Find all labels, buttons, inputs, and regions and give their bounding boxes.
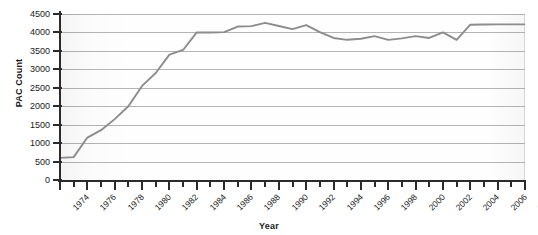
y-tick-label: 3000 (30, 64, 50, 74)
x-tick-label: 1990 (289, 192, 309, 212)
y-tick-label: 3500 (30, 46, 50, 56)
x-tick-mark-major (469, 182, 471, 190)
x-tick-mark-minor (264, 182, 266, 187)
chart-figure: PAC Count 050010001500200025003000350040… (0, 0, 538, 235)
x-tick-mark-minor (319, 182, 321, 187)
x-tick-mark-major (141, 182, 143, 190)
x-tick-mark-minor (182, 182, 184, 187)
y-tick-mark (53, 142, 62, 144)
x-tick-mark-major (114, 182, 116, 190)
y-tick-mark (53, 105, 62, 107)
x-tick-mark-minor (428, 182, 430, 187)
x-tick-mark-minor (100, 182, 102, 187)
x-tick-label: 1978 (125, 192, 145, 212)
x-tick-mark-major (223, 182, 225, 190)
y-tick-label: 500 (35, 157, 50, 167)
x-tick-mark-major (250, 182, 252, 190)
y-tick-mark (53, 68, 62, 70)
x-tick-mark-minor (510, 182, 512, 187)
x-tick-label: 1986 (235, 192, 255, 212)
x-tick-label: 1982 (180, 192, 200, 212)
y-tick-label: 1000 (30, 138, 50, 148)
y-tick-mark (53, 31, 62, 33)
data-line-series (60, 14, 525, 180)
x-tick-label: 1974 (71, 192, 91, 212)
y-tick-mark (53, 124, 62, 126)
y-tick-mark (53, 50, 62, 52)
x-tick-mark-minor (374, 182, 376, 187)
x-tick-mark-minor (456, 182, 458, 187)
x-tick-label: 2000 (426, 192, 446, 212)
x-tick-label: 1976 (98, 192, 118, 212)
x-tick-mark-major (442, 182, 444, 190)
y-tick-label: 1500 (30, 120, 50, 130)
y-tick-mark (53, 161, 62, 163)
y-tick-label: 4500 (30, 9, 50, 19)
x-tick-mark-minor (401, 182, 403, 187)
x-tick-mark-minor (73, 182, 75, 187)
y-axis-tick-labels: 050010001500200025003000350040004500 (12, 0, 50, 235)
x-tick-mark-major (168, 182, 170, 190)
y-tick-label: 0 (45, 175, 50, 185)
x-tick-mark-major (59, 182, 61, 190)
y-tick-mark (53, 13, 62, 15)
y-axis-spine (59, 11, 61, 183)
x-tick-label: 1998 (399, 192, 419, 212)
x-axis-title: Year (0, 221, 538, 231)
x-tick-mark-major (524, 182, 526, 190)
x-tick-label: 1996 (371, 192, 391, 212)
y-tick-label: 2500 (30, 83, 50, 93)
x-tick-label: 2004 (481, 192, 501, 212)
x-tick-mark-major (86, 182, 88, 190)
x-tick-mark-major (196, 182, 198, 190)
x-tick-mark-minor (483, 182, 485, 187)
x-tick-label: 1992 (317, 192, 337, 212)
x-tick-mark-minor (155, 182, 157, 187)
y-tick-mark (53, 87, 62, 89)
x-tick-mark-major (333, 182, 335, 190)
x-tick-mark-major (360, 182, 362, 190)
x-tick-mark-major (415, 182, 417, 190)
x-tick-label: 1988 (262, 192, 282, 212)
y-tick-label: 2000 (30, 101, 50, 111)
x-tick-mark-minor (237, 182, 239, 187)
x-tick-mark-major (305, 182, 307, 190)
x-tick-label: 1984 (207, 192, 227, 212)
x-tick-label: 2006 (508, 192, 528, 212)
x-tick-mark-minor (292, 182, 294, 187)
x-tick-label: 1994 (344, 192, 364, 212)
x-tick-mark-minor (209, 182, 211, 187)
y-tick-mark (53, 179, 62, 181)
x-tick-label: 1980 (153, 192, 173, 212)
x-tick-mark-minor (346, 182, 348, 187)
x-tick-mark-major (387, 182, 389, 190)
x-tick-label: 2002 (453, 192, 473, 212)
x-tick-mark-major (278, 182, 280, 190)
plot-area (60, 14, 525, 180)
x-tick-mark-minor (127, 182, 129, 187)
y-tick-label: 4000 (30, 27, 50, 37)
x-tick-mark-major (497, 182, 499, 190)
